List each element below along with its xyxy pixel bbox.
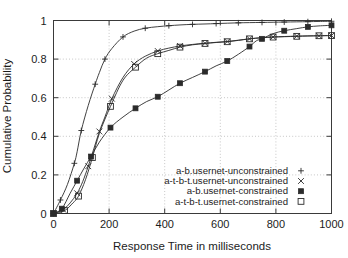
x-tick-label: 1000	[319, 218, 343, 230]
legend-marker-plus-icon	[298, 168, 304, 174]
x-tick-label: 200	[100, 218, 118, 230]
legend-marker-filled-square-icon	[299, 189, 304, 194]
cdf-plot: 00.20.40.60.8102004006008001000 a-b.user…	[0, 0, 348, 258]
legend-marker-cross-icon	[298, 178, 304, 184]
chart-figure: 00.20.40.60.8102004006008001000 a-b.user…	[0, 0, 348, 258]
x-tick-label: 0	[50, 218, 56, 230]
y-tick-label: 0	[40, 208, 46, 220]
legend: a-b.usernet-unconstraineda-t-b-t.usernet…	[164, 165, 304, 207]
y-tick-label: 0.2	[31, 169, 46, 181]
y-axis-title: Cumulative Probability	[1, 59, 13, 174]
x-tick-label: 400	[156, 218, 174, 230]
y-tick-label: 1	[40, 15, 46, 27]
y-tick-label: 0.8	[31, 53, 46, 65]
y-tick-label: 0.6	[31, 92, 46, 104]
legend-label-3: a-t-b-t.usernet-constrained	[175, 196, 288, 207]
x-tick-label: 800	[267, 218, 285, 230]
x-axis-title: Response Time in milliseconds	[113, 240, 271, 252]
legend-marker-open-square-icon	[298, 199, 304, 205]
x-tick-label: 600	[211, 218, 229, 230]
y-tick-label: 0.4	[31, 130, 46, 142]
